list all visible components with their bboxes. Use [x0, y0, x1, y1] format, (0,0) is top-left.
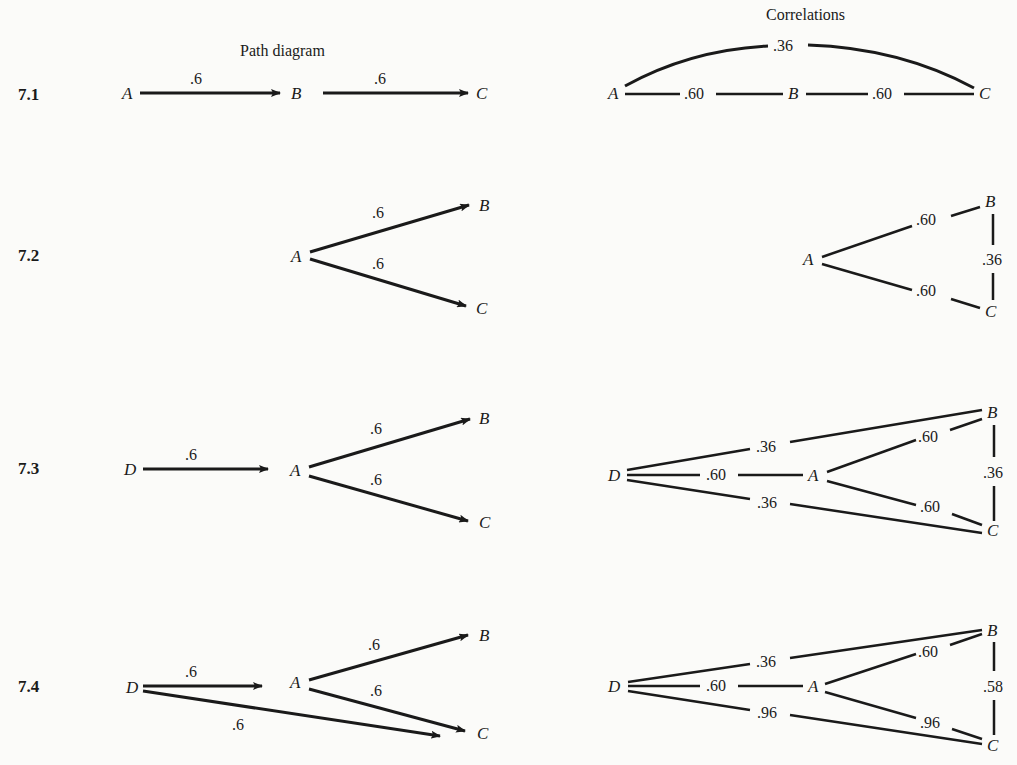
- figure-7-2: 7.2 A .6 B .6 C A .60 B .60 C .36: [18, 192, 1002, 321]
- node-label: B: [479, 626, 490, 645]
- edge-label: .6: [370, 471, 382, 488]
- edge-label: .96: [757, 704, 777, 721]
- node-label: B: [987, 621, 998, 640]
- node-label: A: [121, 84, 133, 103]
- corr-arc: [808, 45, 974, 88]
- corr-edge: [628, 691, 750, 710]
- corr-edge: [827, 481, 916, 505]
- figure-7-4: 7.4 D .6 A .6 B .6 C .6 D .36 .60 A: [18, 621, 1003, 755]
- node-label: B: [987, 403, 998, 422]
- node-label: C: [987, 521, 999, 540]
- node-label: B: [479, 409, 490, 428]
- corr-edge: [952, 729, 982, 739]
- node-label: B: [479, 196, 490, 215]
- node-label: C: [479, 513, 491, 532]
- path-diagram: D .6 A .6 B .6 C: [123, 409, 491, 532]
- corr-edge: [952, 514, 982, 525]
- correlation-diagram: D .36 .60 A .96 .60 B .96 C: [607, 621, 1003, 755]
- edge-label: .36: [756, 653, 776, 670]
- corr-edge: [627, 449, 750, 470]
- arrow-edge: [310, 259, 466, 306]
- path-diagram: D .6 A .6 B .6 C .6: [125, 626, 490, 743]
- corr-edge: [822, 226, 912, 257]
- edge-label: .6: [185, 663, 197, 680]
- arrow-edge: [309, 476, 468, 521]
- corr-edge: [627, 480, 750, 499]
- node-label: A: [289, 673, 301, 692]
- edge-label: .6: [372, 204, 384, 221]
- edge-label: .60: [918, 428, 938, 445]
- path-diagram-figure: Path diagram Correlations 7.1 A .6 B .6 …: [0, 0, 1017, 765]
- corr-edge: [827, 440, 916, 472]
- corr-edge: [950, 634, 982, 645]
- correlation-diagram: A .60 B .60 C .36: [802, 192, 1002, 321]
- corr-arc: [625, 46, 768, 86]
- figure-7-3: 7.3 D .6 A .6 B .6 C D .36 .60 A .36: [18, 403, 1003, 540]
- figure-number: 7.2: [18, 246, 39, 265]
- arrow-edge: [309, 419, 470, 467]
- edge-label: .6: [185, 446, 197, 463]
- arrow-edge: [309, 689, 465, 731]
- node-label: C: [477, 724, 489, 743]
- node-label: D: [125, 678, 139, 697]
- arrow-edge: [309, 635, 468, 680]
- node-label: A: [607, 84, 619, 103]
- edge-label: .36: [983, 464, 1003, 481]
- corr-edge: [822, 264, 912, 290]
- correlation-diagram: D .36 .60 A .36 .60 B .60 C: [607, 403, 1003, 540]
- path-diagram: A .6 B .6 C: [121, 70, 488, 103]
- node-label: A: [802, 250, 814, 269]
- node-label: B: [291, 84, 302, 103]
- node-label: C: [987, 736, 999, 755]
- corr-edge: [825, 654, 916, 684]
- corr-edge: [790, 504, 982, 533]
- edge-label: .6: [190, 70, 202, 87]
- figure-number: 7.1: [18, 85, 39, 104]
- header-path-diagram: Path diagram: [240, 42, 325, 60]
- edge-label: .36: [756, 438, 776, 455]
- node-label: A: [807, 466, 819, 485]
- arrow-edge: [310, 205, 469, 252]
- edge-label: .36: [982, 251, 1002, 268]
- edge-label: .60: [706, 677, 726, 694]
- edge-label: .6: [372, 255, 384, 272]
- node-label: A: [289, 461, 301, 480]
- edge-label: .60: [872, 85, 892, 102]
- node-label: D: [123, 460, 137, 479]
- corr-edge: [825, 692, 916, 718]
- path-diagram: A .6 B .6 C: [290, 196, 490, 318]
- figure-7-1: 7.1 A .6 B .6 C A .60 B .60 C .36: [18, 37, 991, 104]
- corr-edge: [950, 419, 982, 430]
- node-label: C: [476, 299, 488, 318]
- edge-label: .6: [368, 636, 380, 653]
- node-label: C: [476, 84, 488, 103]
- edge-label: .6: [232, 716, 244, 733]
- corr-edge: [790, 410, 982, 442]
- edge-label: .96: [920, 714, 940, 731]
- header-correlations: Correlations: [766, 6, 845, 23]
- correlation-diagram: A .60 B .60 C .36: [607, 37, 991, 103]
- edge-label: .60: [684, 85, 704, 102]
- node-label: D: [607, 677, 621, 696]
- node-label: C: [985, 302, 997, 321]
- edge-label: .6: [374, 70, 386, 87]
- corr-edge: [951, 299, 980, 308]
- edge-label: .60: [918, 643, 938, 660]
- edge-label: .60: [706, 466, 726, 483]
- node-label: D: [607, 466, 621, 485]
- node-label: B: [788, 84, 799, 103]
- edge-label: .36: [757, 494, 777, 511]
- edge-label: .60: [916, 211, 936, 228]
- node-label: A: [290, 247, 302, 266]
- corr-edge: [628, 664, 750, 682]
- figure-number: 7.4: [18, 677, 40, 696]
- edge-label: .6: [370, 682, 382, 699]
- edge-label: .58: [983, 678, 1003, 695]
- edge-label: .6: [370, 420, 382, 437]
- corr-edge: [951, 207, 980, 216]
- edge-label: .60: [920, 498, 940, 515]
- edge-label: .60: [916, 282, 936, 299]
- node-label: C: [979, 84, 991, 103]
- node-label: B: [985, 192, 996, 211]
- figure-number: 7.3: [18, 459, 39, 478]
